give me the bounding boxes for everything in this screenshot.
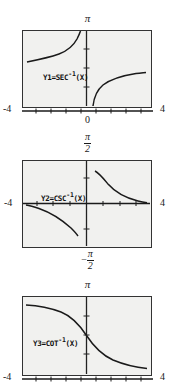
plot1-equation-exponent: -1 [68, 70, 75, 78]
plot2-canvas [23, 161, 150, 246]
plot1-equation-label: Y1=SEC-1(X) [43, 70, 88, 82]
plot2-top-axis-label: π 2 [0, 132, 175, 154]
plot1-curve-left-branch [27, 31, 81, 62]
plot2-frame: Y2=CSC-1(X) [22, 160, 152, 248]
plot-panel-sec-inverse: π Y1=SEC-1(X) -4 4 0 [0, 0, 175, 128]
plot3-x-min-label: -4 [3, 372, 11, 382]
plot1-top-axis-label: π [0, 13, 175, 24]
plot2-top-fraction: π 2 [84, 132, 91, 154]
plot2-top-denominator: 2 [84, 144, 91, 155]
plot2-equation-exponent: -1 [66, 191, 73, 199]
plot3-frame: Y3=COT-1(X) [22, 296, 152, 376]
plot2-curve-positive-branch [95, 171, 147, 203]
plot2-x-min-label: -4 [4, 198, 12, 208]
plot2-x-max-label: 4 [160, 198, 165, 208]
plot1-curve-right-branch [93, 72, 146, 106]
plot-panel-cot-inverse: π Y3=COT-1(X) -4 4 [0, 258, 175, 388]
plot2-equation-arg: (X) [74, 194, 87, 203]
plot3-equation-base: Y3=COT [33, 339, 58, 348]
plot2-equation-label: Y2=CSC-1(X) [41, 191, 86, 203]
plot2-equation-base: Y2=CSC [41, 194, 66, 203]
plot1-bottom-axis-label: 0 [0, 115, 175, 125]
plot2-top-numerator: π [84, 132, 91, 144]
plot1-canvas [23, 31, 150, 106]
plot1-x-min-label: -4 [3, 104, 11, 114]
plot1-x-max-label: 4 [160, 104, 165, 114]
plot3-equation-label: Y3=COT-1(X) [33, 336, 78, 348]
plot3-x-max-label: 4 [160, 372, 165, 382]
plot3-equation-arg: (X) [66, 339, 79, 348]
plot2-curve-negative-branch [26, 205, 78, 236]
plot3-x-axis [18, 374, 157, 384]
plot1-equation-arg: (X) [76, 73, 89, 82]
plot-panel-csc-inverse: π 2 Y2=CSC-1(X) -4 4 [0, 128, 175, 258]
plot3-top-axis-label: π [0, 279, 175, 290]
plot1-frame: Y1=SEC-1(X) [22, 30, 152, 108]
plot3-equation-exponent: -1 [58, 336, 65, 344]
plot1-equation-base: Y1=SEC [43, 73, 68, 82]
